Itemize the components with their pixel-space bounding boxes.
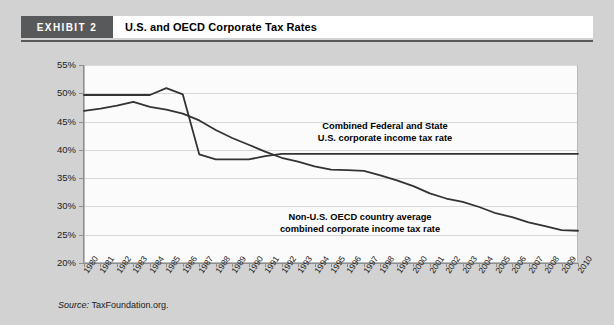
y-axis-label: 20% <box>0 258 76 268</box>
annotation-us-line2: U.S. corporate income tax rate <box>318 133 452 145</box>
y-axis-label: 50% <box>0 88 76 98</box>
grid-line <box>85 178 577 179</box>
y-axis-tick <box>79 206 83 207</box>
annotation-oecd-series: Non-U.S. OECD country average combined c… <box>280 212 440 235</box>
y-axis-tick <box>79 235 83 236</box>
y-axis-tick <box>79 122 83 123</box>
y-axis-label: 55% <box>0 60 76 70</box>
y-axis-tick <box>79 178 83 179</box>
x-axis-label: 2010 <box>576 255 594 275</box>
grid-line <box>85 150 577 151</box>
exhibit-root: EXHIBIT 2 U.S. and OECD Corporate Tax Ra… <box>0 0 614 325</box>
y-axis-tick <box>79 263 83 264</box>
annotation-oecd-line2: combined corporate income tax rate <box>280 224 440 236</box>
y-axis-tick <box>79 150 83 151</box>
annotation-oecd-line1: Non-U.S. OECD country average <box>280 212 440 224</box>
source-note: Source: TaxFoundation.org. <box>58 300 168 310</box>
y-axis-label: 30% <box>0 201 76 211</box>
y-axis-tick <box>79 65 83 66</box>
y-axis-line <box>83 65 84 264</box>
y-axis-label: 25% <box>0 230 76 240</box>
exhibit-header: EXHIBIT 2 U.S. and OECD Corporate Tax Ra… <box>21 16 593 38</box>
grid-line <box>85 93 577 94</box>
exhibit-badge: EXHIBIT 2 <box>21 16 113 38</box>
source-label: Source: <box>58 300 89 310</box>
y-axis-label: 35% <box>0 173 76 183</box>
y-axis-tick <box>79 93 83 94</box>
exhibit-title: U.S. and OECD Corporate Tax Rates <box>113 16 593 38</box>
annotation-us-line1: Combined Federal and State <box>318 121 452 133</box>
y-axis-label: 45% <box>0 117 76 127</box>
grid-line <box>85 206 577 207</box>
header-divider <box>21 40 593 42</box>
annotation-us-series: Combined Federal and State U.S. corporat… <box>318 121 452 144</box>
source-text: TaxFoundation.org. <box>91 300 168 310</box>
y-axis-label: 40% <box>0 145 76 155</box>
grid-line <box>85 65 577 66</box>
